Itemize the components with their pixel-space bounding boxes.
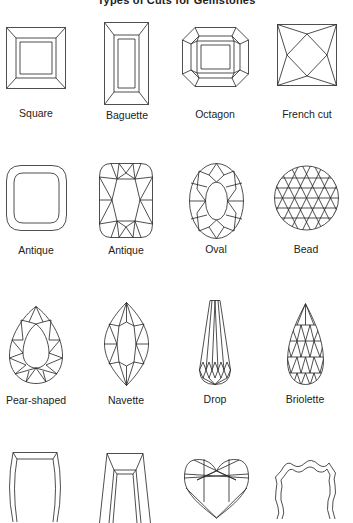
pear-cut-icon xyxy=(9,306,63,384)
shield-cut-icon xyxy=(275,459,336,519)
oval-cut-icon xyxy=(189,163,244,239)
label-square: Square xyxy=(0,107,81,119)
antique-cushion-faceted-icon xyxy=(99,163,153,238)
diagram-title: Types of Cuts for Gemstones xyxy=(0,0,353,6)
square-cut-icon xyxy=(6,27,66,89)
octagon-cut-icon xyxy=(182,27,249,87)
label-antique-2: Antique xyxy=(81,244,171,256)
label-antique-1: Antique xyxy=(0,244,81,256)
drop-cut-icon xyxy=(199,300,231,385)
baguette-cut-icon xyxy=(104,22,149,105)
label-drop: Drop xyxy=(170,393,260,405)
bead-cut-icon xyxy=(274,165,339,231)
navette-cut-icon xyxy=(104,302,149,386)
label-briolette: Briolette xyxy=(260,393,350,405)
label-pear-shaped: Pear-shaped xyxy=(0,394,81,406)
label-baguette: Baguette xyxy=(82,109,172,121)
label-navette: Navette xyxy=(81,394,171,406)
antique-cushion-outline-icon xyxy=(6,165,67,231)
barrel-cut-icon xyxy=(7,452,63,522)
label-french-cut: French cut xyxy=(262,108,352,120)
label-bead: Bead xyxy=(261,243,351,255)
label-octagon: Octagon xyxy=(170,108,260,120)
french-cut-icon xyxy=(277,24,337,86)
trapeze-cut-icon xyxy=(99,453,151,523)
briolette-cut-icon xyxy=(287,303,324,385)
label-oval: Oval xyxy=(171,243,261,255)
heart-cut-icon xyxy=(184,458,249,518)
